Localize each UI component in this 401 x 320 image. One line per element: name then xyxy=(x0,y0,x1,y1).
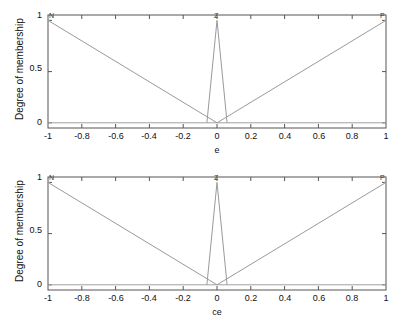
subplot-e: Degree of membership 1 0.5 0 xyxy=(0,0,401,160)
figure-canvas: Degree of membership 1 0.5 0 xyxy=(0,0,401,320)
mf-label-z: Z xyxy=(214,174,218,181)
mf-label-p: P xyxy=(380,12,385,19)
x-tick-label: -0.6 xyxy=(103,131,129,141)
x-tick-label: 0 xyxy=(207,131,227,141)
x-tick-label: 0.8 xyxy=(339,131,365,141)
mf-curve-n xyxy=(48,182,217,284)
mf-curve-z xyxy=(207,182,227,284)
x-tick-label: 0.8 xyxy=(339,293,365,303)
x-tick-label: 0.2 xyxy=(238,131,264,141)
x-tick-label: -0.4 xyxy=(136,293,162,303)
mf-curve-z xyxy=(207,20,227,122)
x-tick-label: -0.4 xyxy=(136,131,162,141)
x-tick-label: -0.2 xyxy=(170,131,196,141)
x-tick-label: -0.8 xyxy=(69,293,95,303)
x-axis-label: ce xyxy=(197,307,237,317)
x-tick-label: -0.6 xyxy=(103,293,129,303)
mf-label-p: P xyxy=(380,174,385,181)
x-tick-label: -1 xyxy=(38,131,58,141)
mf-curve-n xyxy=(48,20,217,122)
x-tick-label: 0.4 xyxy=(272,293,298,303)
mf-curve-p xyxy=(217,182,386,284)
x-tick-label: 1 xyxy=(376,293,396,303)
x-tick-label: -1 xyxy=(38,293,58,303)
x-tick-label: -0.2 xyxy=(170,293,196,303)
mf-curve-p xyxy=(217,20,386,122)
mf-label-z: Z xyxy=(214,12,218,19)
x-tick-label: 0 xyxy=(207,293,227,303)
subplot-ce: Degree of membership 1 0.5 0 xyxy=(0,160,401,320)
x-tick-label: 1 xyxy=(376,131,396,141)
x-tick-label: 0.2 xyxy=(238,293,264,303)
x-tick-label: 0.6 xyxy=(306,131,332,141)
x-tick-label: 0.4 xyxy=(272,131,298,141)
x-tick-label: 0.6 xyxy=(306,293,332,303)
x-axis-label: e xyxy=(197,145,237,155)
mf-label-n: N xyxy=(49,174,54,181)
x-tick-label: -0.8 xyxy=(69,131,95,141)
mf-label-n: N xyxy=(49,12,54,19)
